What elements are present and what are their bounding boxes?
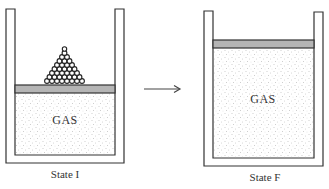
weights-pile-icon xyxy=(45,47,85,84)
gas-label-state-i: GAS xyxy=(52,113,78,128)
gas-label-state-f: GAS xyxy=(250,92,276,107)
caption-state-f: State F xyxy=(250,171,281,183)
piston-state-f xyxy=(213,40,314,48)
caption-state-i: State I xyxy=(51,168,79,180)
right-arrow-icon xyxy=(144,86,180,93)
cylinder-state-f xyxy=(204,11,323,166)
diagram-canvas xyxy=(0,0,329,189)
piston-state-i xyxy=(15,85,115,93)
cylinder-state-i xyxy=(6,9,124,163)
